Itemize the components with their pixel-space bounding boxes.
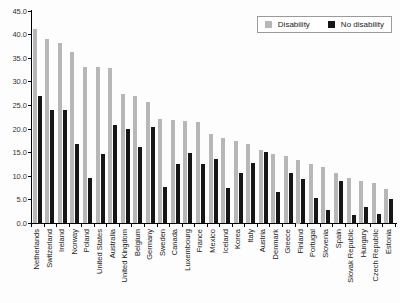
x-tick — [44, 224, 45, 227]
y-tick-label: 35.0 — [5, 54, 27, 63]
x-tick — [144, 224, 145, 227]
x-category-label-iceland: Iceland — [222, 229, 230, 253]
y-tick — [28, 105, 31, 106]
bar-no-disability-korea — [239, 173, 243, 224]
bar-disability-ireland — [58, 43, 62, 224]
x-category-label-korea: Korea — [234, 229, 242, 249]
x-category-label-netherlands: Netherlands — [33, 229, 41, 269]
x-tick — [357, 224, 358, 227]
bar-disability-united-states — [96, 67, 100, 223]
bar-disability-korea — [234, 141, 238, 224]
bar-disability-mexico — [209, 134, 213, 224]
bar-no-disability-netherlands — [38, 96, 42, 224]
x-tick — [382, 224, 383, 227]
x-category-label-greece: Greece — [284, 229, 292, 254]
x-tick — [370, 224, 371, 227]
x-tick — [395, 224, 396, 227]
x-category-label-slovenia: Slovenia — [322, 229, 330, 258]
x-tick — [106, 224, 107, 227]
x-tick — [69, 224, 70, 227]
x-tick — [182, 224, 183, 227]
y-tick — [28, 81, 31, 82]
x-tick — [157, 224, 158, 227]
bar-no-disability-norway — [75, 144, 79, 223]
bar-no-disability-sweden — [163, 187, 167, 224]
bar-no-disability-greece — [289, 173, 293, 223]
x-tick — [169, 224, 170, 227]
bar-no-disability-france — [201, 164, 205, 223]
x-category-label-united-kingdom: United Kingdom — [121, 229, 129, 282]
y-tick — [28, 58, 31, 59]
x-tick — [282, 224, 283, 227]
bar-no-disability-slovenia — [326, 210, 330, 224]
x-category-label-denmark: Denmark — [272, 229, 280, 259]
no-disability-legend-swatch-icon — [328, 21, 335, 28]
x-tick — [269, 224, 270, 227]
x-category-label-finland: Finland — [297, 229, 305, 254]
x-category-label-belgium: Belgium — [134, 229, 142, 256]
bar-no-disability-czech-republic — [377, 214, 381, 223]
y-tick — [28, 11, 31, 12]
no-disability-legend-label: No disability — [341, 20, 384, 29]
bar-no-disability-italy — [251, 163, 255, 223]
bar-disability-italy — [246, 144, 250, 223]
y-tick — [28, 176, 31, 177]
x-category-label-norway: Norway — [71, 229, 79, 254]
x-tick — [94, 224, 95, 227]
x-category-label-czech-republic: Czech Republic — [372, 229, 380, 282]
y-tick — [28, 199, 31, 200]
bar-disability-austria — [259, 150, 263, 224]
y-tick-label: 20.0 — [5, 125, 27, 134]
bar-no-disability-canada — [176, 164, 180, 224]
x-tick — [257, 224, 258, 227]
bar-no-disability-hungary — [364, 207, 368, 224]
bar-disability-sweden — [158, 119, 162, 223]
legend: Disability No disability — [257, 16, 392, 33]
x-tick — [119, 224, 120, 227]
bar-no-disability-iceland — [226, 188, 230, 223]
bar-disability-slovenia — [321, 167, 325, 223]
bar-no-disability-denmark — [276, 192, 280, 224]
x-category-label-austria: Austria — [259, 229, 267, 252]
bar-disability-luxembourg — [183, 121, 187, 223]
x-tick — [345, 224, 346, 227]
x-category-label-luxembourg: Luxembourg — [184, 229, 192, 271]
bar-disability-slovak-republic — [347, 178, 351, 223]
y-tick-label: 5.0 — [5, 195, 27, 204]
bar-disability-estonia — [384, 189, 388, 224]
bar-disability-belgium — [133, 96, 137, 223]
x-tick — [31, 224, 32, 227]
x-tick — [219, 224, 220, 227]
x-category-label-sweden: Sweden — [159, 229, 167, 256]
x-category-label-spain: Spain — [335, 229, 343, 248]
x-category-label-germany: Germany — [146, 229, 154, 260]
bar-disability-poland — [83, 67, 87, 224]
y-tick — [28, 152, 31, 153]
x-tick — [207, 224, 208, 227]
x-category-label-australia: Australia — [109, 229, 117, 258]
bar-no-disability-poland — [88, 178, 92, 224]
x-category-label-italy: Italy — [247, 229, 255, 243]
bar-disability-france — [196, 122, 200, 223]
x-category-label-portugal: Portugal — [309, 229, 317, 257]
x-tick — [307, 224, 308, 227]
x-tick — [320, 224, 321, 227]
bar-disability-canada — [171, 120, 175, 223]
x-tick — [295, 224, 296, 227]
y-tick — [28, 34, 31, 35]
disability-legend-swatch-icon — [265, 21, 272, 28]
bar-disability-switzerland — [45, 39, 49, 223]
x-category-label-poland: Poland — [83, 229, 91, 252]
x-tick — [81, 224, 82, 227]
bar-chart: 0.05.010.015.020.025.030.035.040.045.0Ne… — [0, 0, 400, 303]
bar-no-disability-finland — [301, 179, 305, 223]
x-category-label-estonia: Estonia — [385, 229, 393, 254]
x-category-label-canada: Canada — [171, 229, 179, 255]
bar-no-disability-spain — [339, 181, 343, 224]
disability-legend-label: Disability — [278, 20, 310, 29]
bar-no-disability-mexico — [214, 159, 218, 223]
bar-disability-australia — [108, 68, 112, 224]
bar-no-disability-united-kingdom — [126, 129, 130, 223]
x-tick — [131, 224, 132, 227]
bar-no-disability-belgium — [138, 147, 142, 223]
